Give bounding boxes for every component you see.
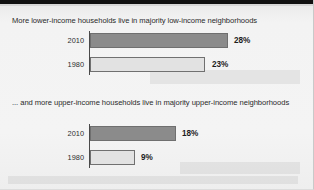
bar-1980 xyxy=(90,57,205,72)
bar-row: 1980 23% xyxy=(0,55,314,74)
bar-value-label-2010: 18% xyxy=(182,126,198,141)
category-label-1980: 1980 xyxy=(50,55,84,74)
scan-smudge xyxy=(8,176,298,184)
category-label-2010: 2010 xyxy=(50,31,84,50)
scanned-figure: More lower-income households live in maj… xyxy=(0,0,314,190)
category-label-2010: 2010 xyxy=(50,124,84,143)
bar-1980 xyxy=(90,150,135,165)
bar-row: 2010 28% xyxy=(0,31,314,50)
bar-row: 2010 18% xyxy=(0,124,314,143)
plot-area-lower-income: 2010 28% 1980 23% xyxy=(0,31,314,77)
bar-value-label-1980: 9% xyxy=(141,150,153,165)
bar-2010 xyxy=(90,33,228,48)
bar-value-label-2010: 28% xyxy=(234,33,250,48)
bar-2010 xyxy=(90,126,176,141)
chart-title-upper-income: ... and more upper-income households liv… xyxy=(12,98,304,108)
chart-title-lower-income: More lower-income households live in maj… xyxy=(12,16,304,26)
bar-row: 1980 9% xyxy=(0,148,314,167)
category-label-1980: 1980 xyxy=(50,148,84,167)
bar-value-label-1980: 23% xyxy=(212,57,228,72)
page-top-band-shadow xyxy=(0,4,314,6)
plot-area-upper-income: 2010 18% 1980 9% xyxy=(0,124,314,170)
